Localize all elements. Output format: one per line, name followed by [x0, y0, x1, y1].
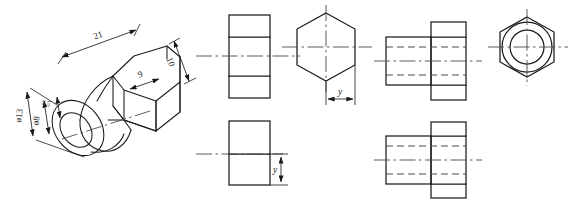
hexagon-view: y: [282, 5, 372, 105]
dimension-y-horizontal: y: [337, 87, 343, 97]
dimension-21: 21: [92, 29, 104, 41]
front-view-top: [196, 15, 300, 98]
front-view-bottom: y: [196, 121, 288, 185]
technical-drawing-canvas: 21 10 9 ø13 ø8 +0.2 -0.1: [0, 0, 577, 208]
section-view-top: [374, 22, 482, 100]
dimension-dia13: ø13: [13, 108, 25, 123]
dimension-10: 10: [164, 56, 177, 69]
faint-header-row: [0, 0, 577, 9]
section-view-bottom: [374, 122, 482, 198]
dimension-dia8: ø8: [30, 115, 41, 126]
end-view-hexagon-with-bore: [488, 9, 568, 86]
dimension-y-vertical: y: [272, 165, 278, 175]
isometric-pictorial-view: 21 10 9 ø13 ø8 +0.2 -0.1: [13, 24, 196, 166]
drawing-sheet: 21 10 9 ø13 ø8 +0.2 -0.1: [0, 0, 577, 208]
tolerance-lower: -0.1: [46, 99, 52, 108]
dimension-9: 9: [136, 69, 144, 80]
